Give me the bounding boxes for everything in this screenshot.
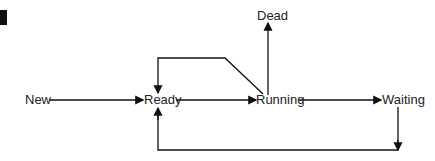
state-ready: Ready [144,93,182,106]
arrow-running-ready [158,58,263,94]
state-waiting: Waiting [382,93,425,106]
state-new: New [25,93,51,106]
transition-arrows [0,0,435,161]
arrow-waiting-ready [158,107,398,150]
state-dead: Dead [257,9,288,22]
state-running: Running [256,93,304,106]
